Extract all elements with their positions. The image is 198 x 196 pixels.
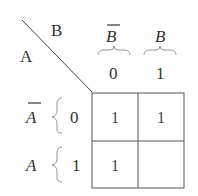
row-code: 1 [72,156,81,175]
corner-row-variable: A [20,47,33,66]
cell-a0-b0: 1 [111,109,119,126]
row-variable-label: A [25,108,37,127]
column-header-b-bar: B 0 [98,25,130,83]
brace-icon [52,147,62,182]
brace-icon [98,46,130,55]
cell-a1-b0: 1 [111,157,119,174]
column-variable-label: B [155,27,166,46]
row-header-a-bar: A 0 [25,98,79,133]
row-code: 0 [70,108,79,127]
row-variable-label: A [25,156,37,175]
column-code: 0 [109,64,118,83]
cell-a0-b1: 1 [157,109,165,126]
row-header-a: A 1 [25,147,81,182]
column-header-b: B 1 [144,27,176,83]
karnaugh-map: B A B 0 B 1 A 0 A 1 1 1 1 [0,0,198,196]
brace-icon [52,98,62,133]
column-variable-label: B [106,27,117,46]
brace-icon [144,46,176,55]
corner-column-variable: B [51,21,62,40]
column-code: 1 [156,64,165,83]
